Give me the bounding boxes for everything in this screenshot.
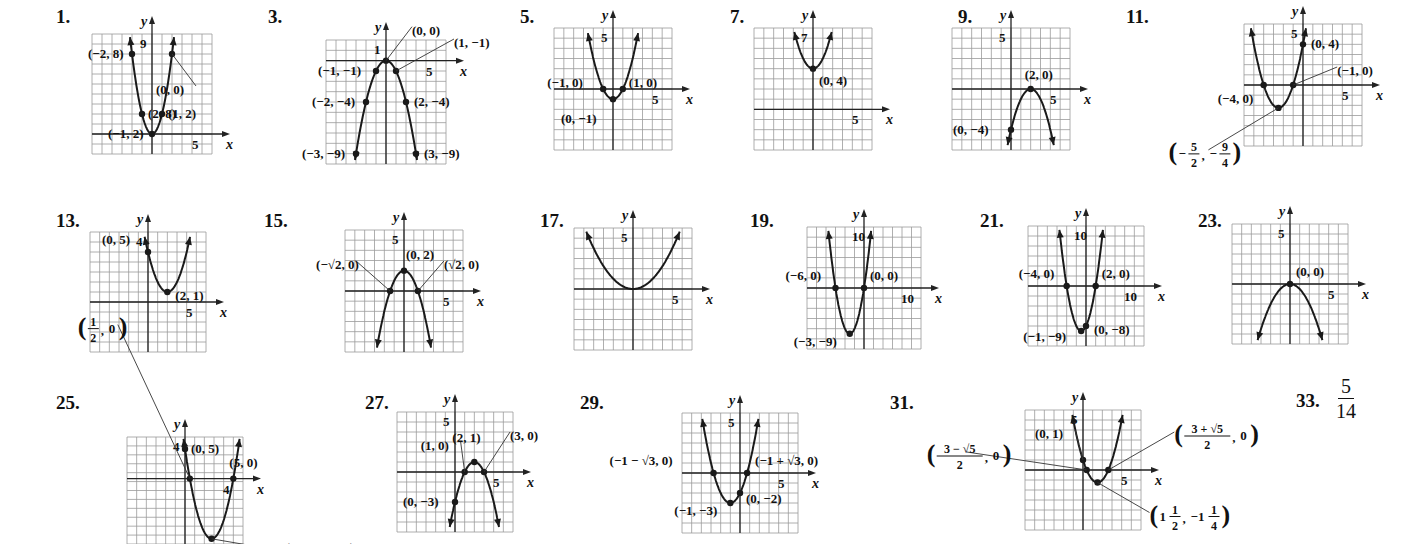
svg-text:,: , xyxy=(985,450,988,465)
axes: xy44 xyxy=(127,417,264,544)
leader-line xyxy=(356,261,390,291)
plotted-point xyxy=(847,331,853,337)
x-tick-label: 5 xyxy=(1342,88,1349,103)
point-label: (1, 0) xyxy=(629,75,657,90)
point-label: (0, 0) xyxy=(156,82,184,97)
leader-line xyxy=(1075,430,1083,460)
x-tick-label: 10 xyxy=(1124,289,1137,304)
problem-number: 21. xyxy=(980,210,1004,232)
x-axis-label: x xyxy=(1157,289,1165,304)
parabola-graph: xy55(−1, 0)(1, 0)(0, −1) xyxy=(554,28,672,150)
fraction-numerator: 5 xyxy=(1338,376,1354,399)
y-tick-label: 5 xyxy=(999,30,1006,45)
curve-arrow-icon xyxy=(1256,331,1263,340)
svg-text:): ) xyxy=(1222,500,1231,529)
point-label: (−1, 0) xyxy=(1337,63,1373,78)
x-axis-label: x xyxy=(1361,287,1369,302)
svg-text:(: ( xyxy=(282,538,291,544)
svg-text:(: ( xyxy=(1168,137,1177,166)
point-label: (−1, −9) xyxy=(1023,329,1066,344)
plotted-point xyxy=(413,150,419,156)
svg-text:2: 2 xyxy=(957,458,963,472)
problem-number: 1. xyxy=(56,6,70,28)
point-label: (0, 0) xyxy=(1296,264,1324,279)
svg-text:1: 1 xyxy=(90,315,96,329)
svg-text:4: 4 xyxy=(1211,519,1217,533)
x-tick-label: 5 xyxy=(186,305,193,320)
point-label: (√2, 0) xyxy=(444,257,479,272)
svg-text:2: 2 xyxy=(1172,519,1178,533)
parabola-graph: xy44(12,0)(0, 5)(5, 0)(114,−818) xyxy=(127,437,243,544)
plotted-point xyxy=(1078,328,1084,334)
problem-number: 25. xyxy=(56,392,80,414)
y-axis-label: y xyxy=(600,8,609,23)
y-axis-label: y xyxy=(391,210,400,225)
y-tick-label: 5 xyxy=(392,232,399,247)
x-tick-label: 5 xyxy=(1328,287,1335,302)
point-label: (1, 2) xyxy=(168,106,196,121)
y-axis-arrow-icon xyxy=(630,210,636,218)
problem-number: 17. xyxy=(540,210,564,232)
point-label: (0, 2) xyxy=(406,247,434,262)
plotted-point xyxy=(149,131,155,137)
x-axis-label: x xyxy=(476,294,484,309)
problem-number: 13. xyxy=(56,210,80,232)
svg-text:0: 0 xyxy=(1240,428,1247,443)
y-axis-arrow-icon xyxy=(1300,6,1306,14)
point-label: (112,−114) xyxy=(1150,500,1231,533)
y-axis-arrow-icon xyxy=(182,419,188,427)
svg-text:): ) xyxy=(119,312,128,341)
point-label: (2, 0) xyxy=(1102,266,1130,281)
curve-arrow-icon xyxy=(426,339,433,347)
point-label: (−1, 0) xyxy=(547,75,583,90)
leader-line xyxy=(212,539,282,544)
point-label: (2, 1) xyxy=(452,430,480,445)
point-label: (0, 0) xyxy=(412,23,440,38)
svg-text:(: ( xyxy=(1150,500,1159,529)
plotted-point xyxy=(1008,126,1014,132)
point-label: (−2, −4) xyxy=(312,94,355,109)
svg-text:4: 4 xyxy=(1222,156,1228,170)
problem-number: 3. xyxy=(268,6,282,28)
y-axis-label: y xyxy=(139,14,148,29)
svg-text:(: ( xyxy=(927,439,936,468)
y-axis-arrow-icon xyxy=(810,10,816,18)
x-tick-label: 5 xyxy=(1050,92,1057,107)
problem-number: 7. xyxy=(730,6,744,28)
plotted-point xyxy=(401,267,407,273)
y-axis-label: y xyxy=(1290,4,1299,19)
problem-number: 5. xyxy=(520,6,534,28)
x-tick-label: 5 xyxy=(426,64,433,79)
plotted-point xyxy=(1300,41,1306,47)
problem-number: 9. xyxy=(958,6,972,28)
svg-text:(: ( xyxy=(78,312,87,341)
svg-text:): ) xyxy=(1003,439,1012,468)
point-label: (−√2, 0) xyxy=(316,257,359,272)
point-label: (3 − √52,0) xyxy=(927,439,1012,472)
parabola-graph: xy1010(−4, 0)(2, 0)(−1, −9)(0, −8) xyxy=(1028,226,1144,346)
point-label: (3, 0) xyxy=(510,428,538,443)
plotted-point xyxy=(353,150,359,156)
parabola-graph: xy55(0, 1)(3 − √52,0)(3 + √52,0)(112,−11… xyxy=(1025,410,1141,530)
svg-text:2: 2 xyxy=(90,331,96,345)
x-axis-label: x xyxy=(885,112,893,127)
y-axis-label: y xyxy=(998,8,1007,23)
leader-line xyxy=(461,442,465,472)
y-tick-label: 5 xyxy=(1278,226,1285,241)
y-tick-label: 9 xyxy=(140,36,147,51)
x-tick-label: 5 xyxy=(443,294,450,309)
plotted-point xyxy=(452,499,458,505)
point-label: (0, −8) xyxy=(1094,322,1130,337)
x-axis-label: x xyxy=(219,305,227,320)
leader-line xyxy=(396,39,454,71)
plotted-point xyxy=(810,65,816,71)
svg-text:,: , xyxy=(101,323,104,338)
point-label: (3 + √52,0) xyxy=(1174,419,1259,452)
plotted-point xyxy=(230,475,236,481)
y-axis-arrow-icon xyxy=(383,22,389,30)
point-label: (0, −2) xyxy=(746,491,782,506)
parabola-graph: xy1010(−6, 0)(0, 0)(−3, −9) xyxy=(807,227,921,349)
point-label: (0, −3) xyxy=(403,494,439,509)
leader-line xyxy=(418,261,444,291)
point-label: (1, 0) xyxy=(421,438,449,453)
